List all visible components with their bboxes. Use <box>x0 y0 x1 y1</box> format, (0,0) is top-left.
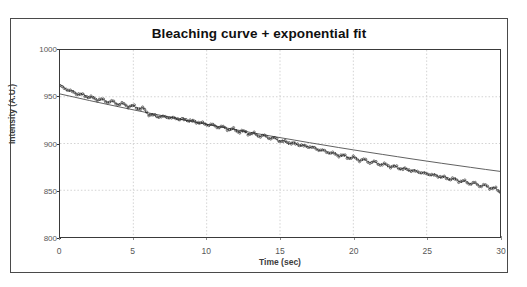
x-tick-mark <box>501 236 502 240</box>
x-tick-label: 0 <box>44 246 74 256</box>
x-tick-label: 15 <box>265 246 295 256</box>
figure-card: Bleaching curve + exponential fit Intens… <box>10 18 508 273</box>
y-tick-label: 1000 <box>27 45 57 54</box>
plot-wrapper: Intensity (A.U.) Time (sec) 800850900950… <box>11 19 509 274</box>
x-axis-tick-group: 051015202530 <box>59 240 501 256</box>
plot-area <box>59 49 501 238</box>
data-series-layer <box>60 50 500 237</box>
x-tick-label: 20 <box>339 246 369 256</box>
y-tick-label: 850 <box>27 186 57 195</box>
x-tick-label: 30 <box>486 246 516 256</box>
y-tick-label: 900 <box>27 139 57 148</box>
cutoff-caption-text <box>14 0 354 6</box>
x-tick-label: 5 <box>118 246 148 256</box>
x-tick-label: 25 <box>412 246 442 256</box>
y-tick-label: 800 <box>27 234 57 243</box>
y-tick-label: 950 <box>27 92 57 101</box>
x-axis-label: Time (sec) <box>59 257 501 267</box>
y-axis-tick-group: 8008509009501000 <box>23 49 57 238</box>
y-axis-label: Intensity (A.U.) <box>7 84 17 144</box>
x-tick-label: 10 <box>191 246 221 256</box>
